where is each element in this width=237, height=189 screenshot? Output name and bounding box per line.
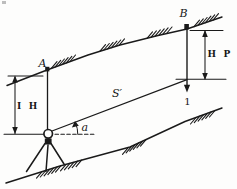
angle-arrow-icon <box>72 121 79 128</box>
ih-arrow-up-icon <box>12 76 18 83</box>
ih-label: I H <box>17 101 39 111</box>
hp-label: H P <box>208 49 233 59</box>
surveying-figure: A B 1 S′ a I H H P <box>0 0 237 189</box>
slope-distance-label: S′ <box>112 87 123 100</box>
theodolite <box>27 130 65 172</box>
roof-ground-line <box>7 17 222 86</box>
ih-arrow-down-icon <box>12 127 18 134</box>
point-a-label: A <box>38 57 47 70</box>
point-b-label: B <box>179 7 188 20</box>
target-point-label: 1 <box>184 96 190 107</box>
hp-dimension: H P <box>176 30 233 80</box>
hp-arrow-up-icon <box>202 30 208 37</box>
tripod-legs <box>27 144 65 172</box>
angle-label: a <box>82 121 89 134</box>
instrument-circle <box>44 130 53 139</box>
surveying-diagram: A B 1 S′ a I H H P <box>0 0 237 189</box>
point-b-marker <box>184 24 189 29</box>
prism-arrow-icon <box>184 85 190 93</box>
scan-artifact <box>2 1 6 4</box>
floor-ground-line <box>6 108 222 183</box>
